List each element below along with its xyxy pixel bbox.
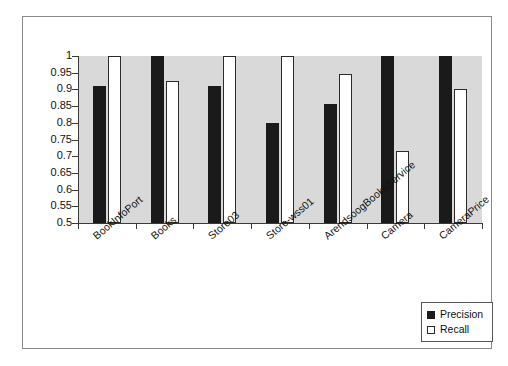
y-axis-tick: [72, 106, 78, 107]
y-axis-tick: [72, 206, 78, 207]
x-axis-tick: [251, 224, 252, 229]
bar-precision-5: [381, 56, 394, 223]
y-axis-tick-label: 0.9: [28, 83, 72, 94]
y-axis-tick-label: 0.65: [28, 167, 72, 178]
bar-recall-0: [108, 56, 121, 223]
x-axis-tick: [136, 224, 137, 229]
bar-recall-3: [281, 56, 294, 223]
y-axis-tick-label: 0.55: [28, 200, 72, 211]
y-axis-tick: [72, 173, 78, 174]
x-axis-tick: [309, 224, 310, 229]
legend-item-precision: Precision: [427, 307, 486, 322]
x-axis-tick: [482, 224, 483, 229]
y-axis-tick: [72, 73, 78, 74]
bar-precision-6: [439, 56, 452, 223]
chart-figure: 10.950.90.850.80.750.70.650.60.550.5 Boo…: [22, 16, 492, 349]
bar-recall-6: [454, 89, 467, 223]
y-axis-tick-label: 1: [28, 50, 72, 61]
x-axis-tick: [367, 224, 368, 229]
bar-recall-2: [223, 56, 236, 223]
bar-precision-2: [208, 86, 221, 223]
bar-precision-0: [93, 86, 106, 223]
y-axis-tick: [72, 156, 78, 157]
x-axis-tick: [193, 224, 194, 229]
x-axis-tick: [78, 224, 79, 229]
y-axis-line: [78, 56, 79, 224]
y-axis-labels: 10.950.90.850.80.750.70.650.60.550.5: [23, 17, 72, 348]
y-axis-tick-label: 0.6: [28, 184, 72, 195]
bar-recall-4: [339, 74, 352, 223]
bar-precision-4: [324, 104, 337, 223]
y-axis-tick-label: 0.8: [28, 117, 72, 128]
chart-legend: Precision Recall: [421, 302, 493, 342]
y-axis-tick-label: 0.85: [28, 100, 72, 111]
bar-recall-1: [166, 81, 179, 223]
y-axis-tick: [72, 89, 78, 90]
y-axis-tick-label: 0.75: [28, 134, 72, 145]
y-axis-tick: [72, 56, 78, 57]
legend-label-precision: Precision: [440, 309, 483, 320]
y-axis-tick: [72, 123, 78, 124]
y-axis-tick-label: 0.95: [28, 67, 72, 78]
y-axis-tick: [72, 140, 78, 141]
filled-square-icon: [427, 311, 435, 319]
legend-label-recall: Recall: [440, 324, 469, 335]
y-axis-tick: [72, 190, 78, 191]
y-axis-tick-label: 0.5: [28, 217, 72, 228]
y-axis-tick-label: 0.7: [28, 150, 72, 161]
hollow-square-icon: [427, 326, 435, 334]
bar-precision-3: [266, 123, 279, 223]
x-axis-tick: [424, 224, 425, 229]
bar-precision-1: [151, 56, 164, 223]
legend-item-recall: Recall: [427, 322, 486, 337]
